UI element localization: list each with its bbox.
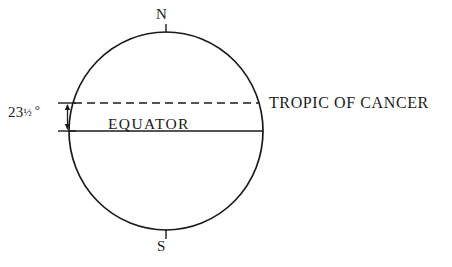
diagram-canvas (0, 0, 452, 267)
earth-diagram: N S EQUATOR TROPIC OF CANCER 23½° (0, 0, 452, 267)
tilt-angle-fraction: ½ (23, 106, 31, 118)
angle-arrowhead-up (65, 104, 70, 110)
tilt-angle-label: 23½° (8, 103, 40, 120)
equator-label: EQUATOR (108, 116, 190, 132)
tilt-angle-value: 23 (8, 104, 23, 120)
south-pole-label: S (157, 239, 166, 254)
tropic-of-cancer-label: TROPIC OF CANCER (269, 95, 429, 111)
north-pole-label: N (156, 7, 167, 22)
degree-symbol-icon: ° (35, 102, 40, 117)
